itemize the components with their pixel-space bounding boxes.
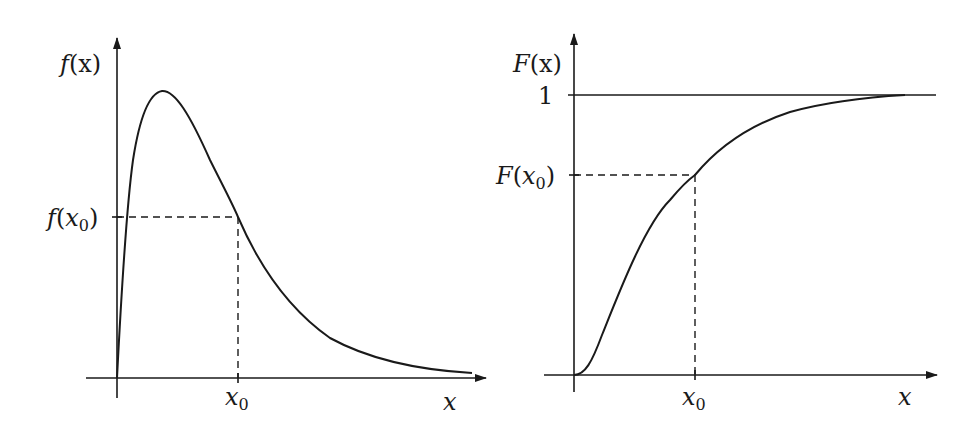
y-axis-label: f(x) bbox=[58, 50, 101, 78]
y-tick-label-one: 1 bbox=[538, 82, 553, 110]
x-tick-label: x0 bbox=[225, 383, 249, 414]
cdf-curve bbox=[574, 95, 905, 375]
cdf-chart: F(x) 1 F(x0) x0 x bbox=[495, 34, 937, 414]
y-axis-label: F(x) bbox=[512, 50, 562, 78]
x-tick-label: x0 bbox=[682, 383, 706, 414]
figure: f(x) f(x0) x0 x F(x) 1 F(x0) x0 x bbox=[0, 0, 971, 432]
y-tick-label: F(x0) bbox=[495, 162, 555, 193]
pdf-curve bbox=[117, 91, 472, 378]
x-axis-label: x bbox=[898, 383, 912, 411]
pdf-chart: f(x) f(x0) x0 x bbox=[45, 38, 486, 416]
y-tick-label: f(x0) bbox=[45, 204, 98, 235]
x-axis-label: x bbox=[443, 388, 457, 416]
